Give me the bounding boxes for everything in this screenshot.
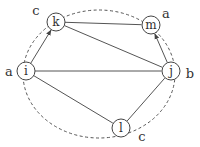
edge-j-m xyxy=(155,34,168,63)
edges-group xyxy=(31,22,168,123)
node-label: m xyxy=(145,18,157,32)
edge-l-j xyxy=(127,78,165,121)
node-label: k xyxy=(52,15,60,29)
edge-i-k xyxy=(31,30,51,63)
nodes-group: kcmaiajblc xyxy=(5,3,194,144)
node-k: kc xyxy=(32,3,65,31)
node-color-label: a xyxy=(5,64,13,79)
edge-k-m xyxy=(65,22,142,24)
node-j: jb xyxy=(162,62,194,81)
node-color-label: a xyxy=(162,6,170,21)
node-label: i xyxy=(24,64,28,78)
node-l: lc xyxy=(112,119,146,144)
node-label: l xyxy=(119,121,123,135)
node-color-label: c xyxy=(32,3,39,18)
node-color-label: b xyxy=(186,66,194,81)
graph-diagram: kcmaiajblc xyxy=(0,0,200,147)
node-i: ia xyxy=(5,62,35,80)
node-color-label: c xyxy=(138,129,145,144)
edge-i-l xyxy=(34,76,113,123)
node-m: ma xyxy=(142,6,170,34)
